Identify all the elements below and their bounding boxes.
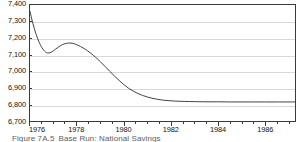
figure-caption: Figure 7A.5Base Run: National Savings — [12, 134, 161, 142]
x-tick-label: 1984 — [210, 126, 226, 134]
x-tick-minor — [88, 122, 89, 124]
y-tick-label: 7,400 — [8, 0, 26, 8]
y-tick-label: 7,200 — [8, 34, 26, 42]
x-tick-minor — [183, 122, 184, 124]
x-tick-minor — [206, 122, 207, 124]
figure-caption-number: Figure 7A.5 — [12, 134, 54, 142]
x-tick-minor — [253, 122, 254, 124]
y-tick-mark — [29, 105, 32, 106]
y-tick-mark — [29, 21, 32, 22]
y-tick-mark — [29, 71, 32, 72]
y-tick-label: 6,700 — [8, 118, 26, 126]
y-axis: 7,4007,3007,2007,1007,0006,9006,8006,700 — [0, 0, 27, 142]
figure-caption-text: Base Run: National Savings — [58, 134, 160, 142]
y-tick-label: 6,800 — [8, 101, 26, 109]
figure-container: 7,4007,3007,2007,1007,0006,9006,8006,700… — [0, 0, 302, 142]
x-tick-label: 1986 — [257, 126, 273, 134]
x-tick-minor — [277, 122, 278, 124]
x-tick-minor — [53, 122, 54, 124]
x-tick-minor — [100, 122, 101, 124]
x-tick-minor — [64, 122, 65, 124]
y-tick-label: 7,000 — [8, 67, 26, 75]
x-tick-label: 1978 — [68, 126, 84, 134]
x-tick-minor — [289, 122, 290, 124]
x-tick-label: 1976 — [29, 126, 45, 134]
x-tick-minor — [230, 122, 231, 124]
y-tick-label: 6,900 — [8, 84, 26, 92]
plot-area — [29, 4, 296, 122]
x-tick-minor — [147, 122, 148, 124]
x-tick-minor — [242, 122, 243, 124]
y-tick-label: 7,100 — [8, 51, 26, 59]
y-tick-label: 7,300 — [8, 17, 26, 25]
y-tick-mark — [29, 88, 32, 89]
x-tick-minor — [112, 122, 113, 124]
y-tick-mark — [29, 38, 32, 39]
x-tick-minor — [194, 122, 195, 124]
y-tick-mark — [29, 55, 32, 56]
series-line-national-savings — [30, 5, 295, 121]
series-path — [30, 11, 295, 102]
x-tick-label: 1980 — [115, 126, 131, 134]
x-tick-label: 1982 — [163, 126, 179, 134]
x-tick-minor — [135, 122, 136, 124]
x-tick-minor — [159, 122, 160, 124]
x-tick-minor — [41, 122, 42, 124]
